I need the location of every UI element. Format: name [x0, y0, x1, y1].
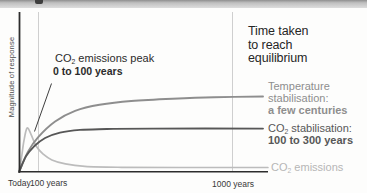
- temperature-label-line1: Temperature: [268, 80, 347, 92]
- co2-stabilisation-label: CO2 stabilisation: 100 to 300 years: [268, 122, 353, 146]
- co2-stab-equilibrium-time: 100 to 300 years: [268, 134, 353, 146]
- co2-stabilisation-curve: [19, 129, 263, 172]
- x-tick-1000-years: 1000 years: [212, 179, 254, 189]
- x-tick-100-years: 100 years: [30, 178, 67, 188]
- chart-title-line1: Time taken: [248, 25, 308, 39]
- chart-title: Time taken to reach equilibrium: [248, 25, 308, 66]
- x-tick-today: Today: [8, 178, 31, 188]
- figure-equilibrium-chart: Magnitude of response Today 100 years 10…: [0, 0, 367, 193]
- emissions-peak-annotation: CO2 emissions peak 0 to 100 years: [53, 52, 154, 77]
- temperature-equilibrium-time: a few centuries: [268, 104, 347, 116]
- chart-title-line2: to reach: [248, 39, 308, 53]
- emissions-peak-annotation-line1: CO2 emissions peak: [53, 52, 154, 65]
- temperature-label-line2: stabilisation:: [268, 92, 347, 104]
- y-axis-label: Magnitude of response: [7, 37, 16, 118]
- co2-stab-label-line1: CO2 stabilisation:: [268, 122, 353, 134]
- emissions-peak-annotation-line2: 0 to 100 years: [53, 65, 154, 77]
- chart-title-line3: equilibrium: [248, 52, 308, 66]
- co2-emissions-label: CO2 emissions: [271, 161, 343, 173]
- temperature-stabilisation-label: Temperature stabilisation: a few centuri…: [268, 80, 347, 116]
- annotation-leader-line: [35, 84, 52, 132]
